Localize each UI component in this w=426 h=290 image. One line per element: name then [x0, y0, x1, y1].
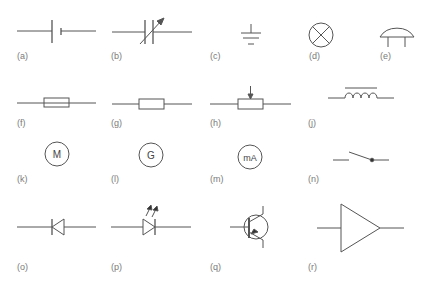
label-b: (b) [111, 51, 122, 61]
led-symbol [111, 205, 191, 235]
lamp-symbol [309, 23, 333, 47]
milliammeter-text: mA [243, 153, 257, 163]
diode-symbol [17, 219, 96, 235]
label-g: (g) [111, 118, 122, 128]
switch-symbol [333, 152, 389, 162]
fuse-symbol [17, 98, 96, 107]
label-p: (p) [111, 262, 122, 272]
label-c: (c) [210, 51, 221, 61]
label-n: (n) [308, 174, 319, 184]
variable-capacitor-symbol [112, 18, 192, 44]
potentiometer-symbol [210, 86, 291, 109]
inductor-symbol [328, 88, 394, 98]
label-d: (d) [309, 51, 320, 61]
label-k: (k) [17, 174, 28, 184]
label-m: (m) [210, 174, 224, 184]
label-l: (l) [111, 174, 119, 184]
resistor-symbol [112, 99, 192, 109]
cell-symbol [17, 20, 96, 43]
transistor-symbol [230, 206, 268, 248]
earth-symbol [241, 24, 261, 44]
semiconductor-sensor-symbol [380, 28, 414, 47]
amplifier-symbol [317, 204, 404, 252]
motor-text: M [53, 149, 61, 160]
label-r: (r) [308, 262, 317, 272]
label-h: (h) [210, 118, 221, 128]
label-f: (f) [17, 118, 26, 128]
label-e: (e) [380, 51, 391, 61]
circuit-symbols-diagram: M G mA [0, 0, 426, 290]
label-o: (o) [17, 262, 28, 272]
generator-text: G [147, 150, 155, 161]
label-j: (j) [308, 118, 316, 128]
label-q: (q) [210, 262, 221, 272]
label-a: (a) [17, 51, 28, 61]
